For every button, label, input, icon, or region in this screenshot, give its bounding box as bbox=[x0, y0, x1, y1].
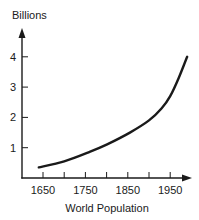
x-tick-label: 1650 bbox=[31, 184, 55, 196]
y-tick-label: 4 bbox=[10, 51, 16, 63]
y-ticks: 1234 bbox=[10, 51, 28, 154]
x-ticks: 1650175018501950 bbox=[31, 172, 183, 196]
population-chart: 1234 1650175018501950 Billions World Pop… bbox=[0, 0, 199, 220]
x-tick-label: 1750 bbox=[73, 184, 97, 196]
y-tick-label: 3 bbox=[10, 81, 16, 93]
y-tick-label: 2 bbox=[10, 111, 16, 123]
x-axis-arrow-icon bbox=[182, 175, 192, 182]
y-tick-label: 1 bbox=[10, 142, 16, 154]
x-tick-label: 1950 bbox=[158, 184, 182, 196]
x-axis-label: World Population bbox=[65, 202, 149, 214]
y-axis bbox=[19, 28, 26, 179]
x-tick-label: 1850 bbox=[116, 184, 140, 196]
y-axis-arrow-icon bbox=[19, 28, 26, 38]
population-curve bbox=[39, 57, 187, 168]
y-axis-label: Billions bbox=[12, 9, 47, 21]
